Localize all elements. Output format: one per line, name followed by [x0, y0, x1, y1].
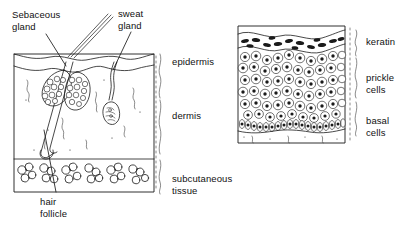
label-basal-cells: basal cells — [366, 115, 389, 138]
label-keratin: keratin — [366, 36, 395, 48]
sebaceous-leader — [46, 34, 66, 66]
left-skin-block — [14, 14, 154, 192]
label-sebaceous-gland: Sebaceous gland — [12, 9, 60, 32]
keratin-cells — [241, 36, 345, 50]
prickle-cells-layer — [238, 50, 346, 122]
label-epidermis: epidermis — [172, 56, 214, 68]
hair-shaft — [68, 14, 113, 58]
left-panel-braces — [156, 54, 161, 194]
sebaceous-gland-structure — [42, 70, 90, 110]
keratin-brace — [355, 30, 357, 56]
label-subcutaneous-tissue: subcutaneous tissue — [172, 173, 232, 196]
dermis-brace — [159, 100, 161, 154]
dermis-fibre-texture — [27, 80, 135, 149]
left-callout-leaders — [44, 32, 131, 192]
subcutaneous-fat-cells — [18, 163, 149, 184]
prickle-brace — [355, 58, 357, 98]
sweat-gland-coil — [103, 102, 120, 125]
sweat-leader — [113, 32, 131, 70]
keratin-surface-line — [238, 30, 345, 39]
basal-cells-layer — [238, 119, 345, 133]
sweat-gland-structure — [103, 62, 120, 124]
subcutaneous-brace — [159, 160, 161, 194]
sweat-coil-loops — [106, 108, 115, 121]
label-prickle-cells: prickle cells — [366, 72, 394, 95]
label-sweat-gland: sweat gland — [118, 8, 143, 31]
right-panel-braces — [350, 28, 357, 140]
right-epidermis-block — [238, 26, 346, 143]
basal-brace — [355, 102, 357, 136]
label-dermis: dermis — [172, 110, 201, 122]
epidermis-dermis-junction — [14, 65, 154, 72]
skin-surface-line — [14, 54, 154, 60]
right-dermis-texture — [252, 136, 323, 143]
epidermis-brace — [159, 54, 161, 98]
label-hair-follicle: hair follicle — [40, 196, 67, 219]
figure-canvas: Sebaceous gland sweat gland hair follicl… — [0, 0, 408, 226]
hair-follicle-leader — [44, 130, 56, 192]
